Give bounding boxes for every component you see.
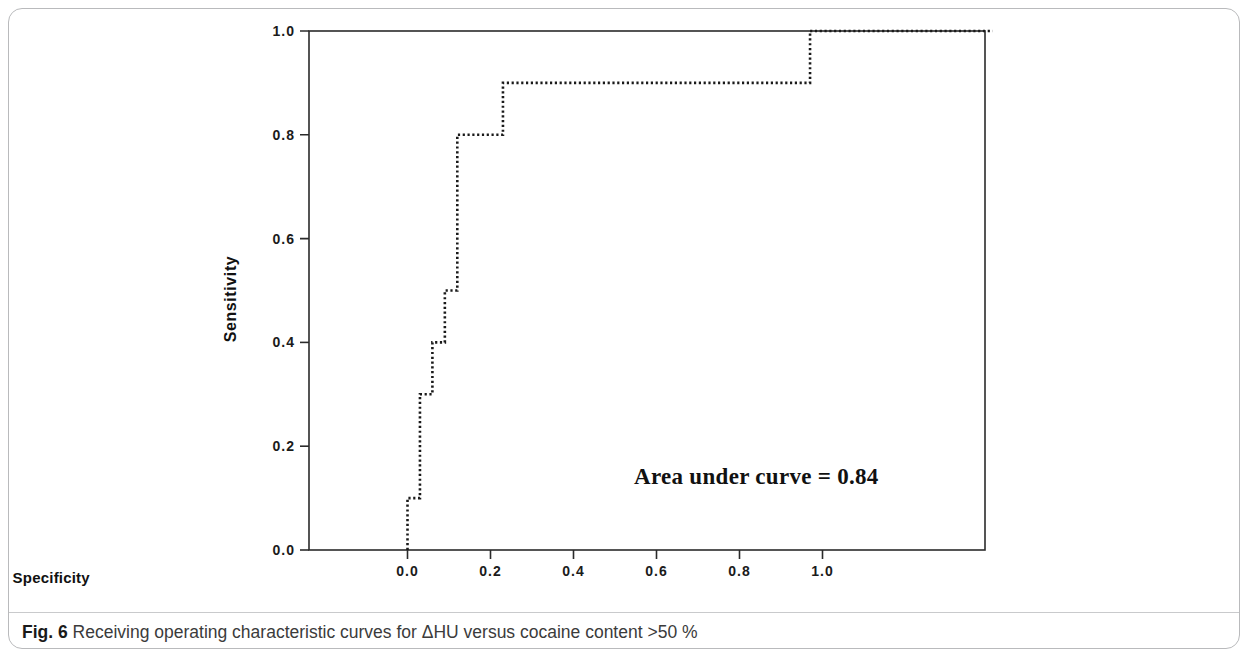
y-axis-ticks: [300, 31, 309, 550]
figure-caption: Fig. 6 Receiving operating characteristi…: [22, 621, 1222, 643]
x-axis-title-wrapper: 1 - Specificity: [9, 569, 1240, 586]
figure-caption-text: Receiving operating characteristic curve…: [68, 622, 698, 642]
y-tick-label: 0.2: [257, 438, 295, 454]
figure-card: 0.00.20.40.60.81.0 0.00.20.40.60.81.0 Se…: [8, 8, 1240, 649]
caption-divider: [9, 612, 1240, 613]
y-tick-label: 0.6: [257, 231, 295, 247]
figure-caption-label: Fig. 6: [22, 622, 68, 642]
x-axis-ticks: [408, 550, 823, 559]
y-tick-label: 0.8: [257, 127, 295, 143]
roc-chart-svg: [9, 9, 1240, 601]
y-tick-label: 1.0: [257, 23, 295, 39]
y-tick-label: 0.0: [257, 542, 295, 558]
x-axis-title: 1 - Specificity: [8, 569, 90, 586]
roc-plot-region: 0.00.20.40.60.81.0 0.00.20.40.60.81.0 Se…: [9, 9, 1240, 601]
area-under-curve-annotation: Area under curve = 0.84: [634, 464, 879, 490]
y-tick-label: 0.4: [257, 334, 295, 350]
y-axis-title: Sensitivity: [222, 256, 240, 343]
